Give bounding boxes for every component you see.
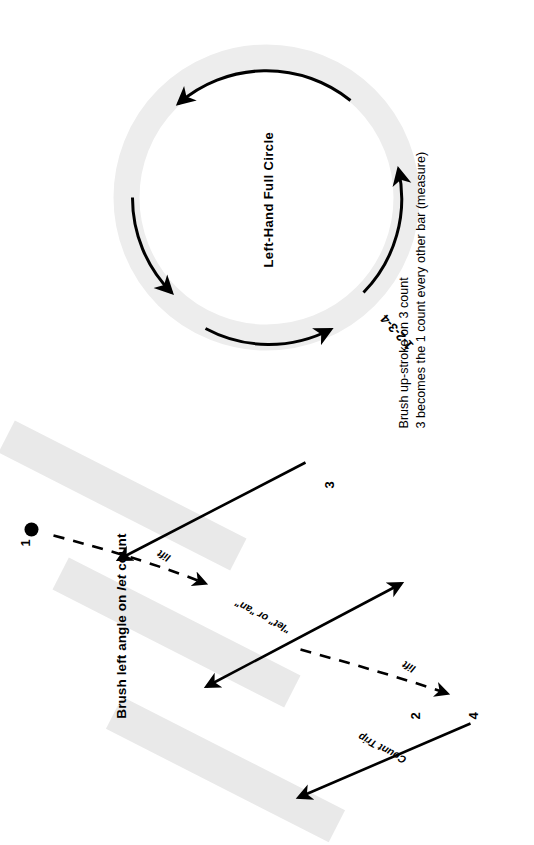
bar-count-4: 4: [464, 712, 481, 719]
diagram-page: Brush left angle on let count Brush up-s…: [0, 0, 534, 845]
diagram-text-layer: Brush left angle on let count Brush up-s…: [0, 0, 534, 845]
page-title-emphasis: let: [113, 574, 128, 590]
page-title: Brush left angle on let count: [94, 533, 147, 749]
page-title-suffix: count: [113, 533, 128, 574]
circle-center-label: Left-Hand Full Circle: [259, 131, 276, 267]
bar-count-1: 1: [16, 539, 33, 546]
let-or-an-label: "let" or "an": [232, 595, 292, 636]
lift-label-lower: lift: [400, 657, 418, 675]
note-line-2: 3 becomes the 1 count every other bar (m…: [412, 151, 429, 428]
bar-count-2: 2: [406, 712, 423, 719]
lift-label-upper: lift: [155, 546, 173, 564]
bar-count-3: 3: [320, 481, 337, 488]
page-title-prefix: Brush left angle on: [113, 590, 128, 718]
count-trip-label: Count Trip: [355, 729, 408, 766]
diagram-canvas: Brush left angle on let count Brush up-s…: [0, 0, 534, 845]
